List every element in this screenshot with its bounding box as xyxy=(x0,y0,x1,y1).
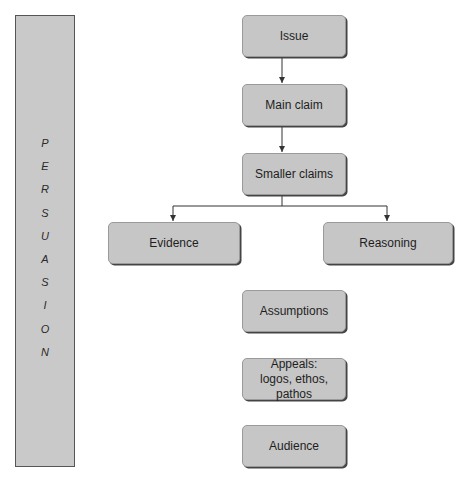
audience-label: Audience xyxy=(269,439,319,454)
issue-label: Issue xyxy=(280,29,309,44)
evidence-label: Evidence xyxy=(149,236,198,251)
reasoning-box: Reasoning xyxy=(323,222,453,264)
assumptions-label: Assumptions xyxy=(260,304,329,319)
issue-box: Issue xyxy=(242,15,346,57)
main-claim-label: Main claim xyxy=(265,98,322,113)
appeals-types-label: logos, ethos, pathos xyxy=(243,372,345,402)
evidence-box: Evidence xyxy=(108,222,240,264)
main-claim-box: Main claim xyxy=(242,84,346,126)
assumptions-box: Assumptions xyxy=(242,290,346,332)
reasoning-label: Reasoning xyxy=(359,236,416,251)
smaller-claims-label: Smaller claims xyxy=(255,167,333,182)
appeals-label: Appeals: xyxy=(271,357,318,372)
appeals-box: Appeals: logos, ethos, pathos xyxy=(242,358,346,400)
smaller-claims-box: Smaller claims xyxy=(242,153,346,195)
audience-box: Audience xyxy=(242,425,346,467)
